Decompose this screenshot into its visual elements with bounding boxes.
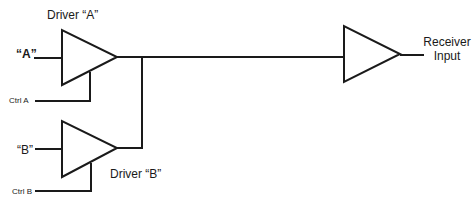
receiver-input-label: Receiver Input [423, 35, 471, 63]
driver-b-triangle [62, 121, 117, 177]
receiver-triangle [344, 26, 400, 82]
driver-a-label: Driver “A” [47, 9, 98, 21]
bus-diagram [0, 0, 476, 205]
receiver-label-line2: Input [423, 49, 471, 63]
input-b-label: “B” [17, 144, 33, 156]
driver-b-output-wire [117, 57, 142, 148]
receiver-label-line1: Receiver [423, 35, 471, 49]
ctrl-b-label: Ctrl B [12, 188, 32, 196]
driver-b-label: Driver “B” [110, 168, 161, 180]
input-a-label: “A” [16, 48, 37, 60]
ctrl-a-label: Ctrl A [9, 97, 29, 105]
